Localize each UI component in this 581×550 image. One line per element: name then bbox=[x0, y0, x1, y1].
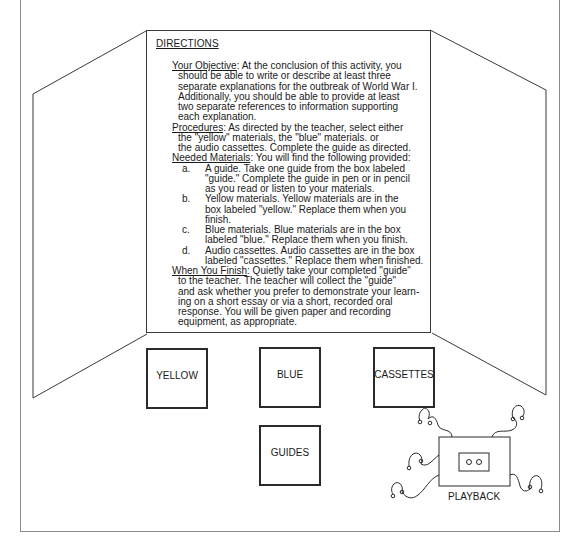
cassette-player-icon bbox=[0, 0, 581, 550]
playback-label: PLAYBACK bbox=[448, 491, 500, 502]
